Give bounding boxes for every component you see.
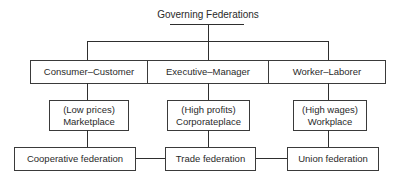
box-line2: Corporateplace [176, 116, 241, 128]
box-consumer-customer: Consumer–Customer [30, 60, 148, 84]
box-executive-manager: Executive–Manager [147, 60, 269, 84]
box-line1: (High profits) [181, 104, 235, 116]
org-diagram: Governing Federations Consumer–Customer … [0, 0, 400, 187]
box-line1: (High wages) [302, 104, 358, 116]
connector-center-row1-row2 [208, 83, 209, 100]
box-label: Consumer–Customer [44, 66, 134, 78]
box-label: Trade federation [176, 153, 245, 165]
box-union-federation: Union federation [287, 147, 379, 171]
box-line2: Workplace [308, 116, 353, 128]
connector-left-down [87, 41, 88, 60]
box-trade-federation: Trade federation [165, 147, 256, 171]
connector-left-row1-row2 [87, 83, 88, 100]
box-label: Worker–Laborer [293, 66, 361, 78]
connector-right-down [328, 41, 329, 60]
box-marketplace: (Low prices) Marketplace [49, 100, 129, 131]
connector-trade-union [255, 158, 287, 159]
connector-right-row2-row3 [328, 130, 329, 147]
connector-right-row1-row2 [328, 83, 329, 100]
connector-center-row2-row3 [208, 130, 209, 147]
box-label: Union federation [298, 153, 368, 165]
box-workplace: (High wages) Workplace [293, 100, 367, 131]
connector-horizontal-top [87, 41, 329, 42]
box-line1: (Low prices) [63, 104, 115, 116]
title-underline [170, 24, 244, 25]
box-line2: Marketplace [63, 116, 115, 128]
connector-left-row2-row3 [87, 130, 88, 147]
connector-title-to-row1 [208, 24, 209, 60]
connector-cooperative-trade [135, 158, 165, 159]
box-cooperative-federation: Cooperative federation [14, 147, 136, 171]
box-label: Cooperative federation [27, 153, 123, 165]
box-worker-laborer: Worker–Laborer [268, 60, 386, 84]
box-label: Executive–Manager [166, 66, 250, 78]
diagram-title: Governing Federations [150, 9, 266, 20]
box-corporateplace: (High profits) Corporateplace [167, 100, 250, 131]
